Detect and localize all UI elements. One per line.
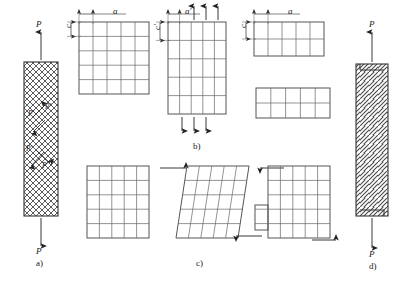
panel-c-offset-grid-group xyxy=(255,166,336,240)
panel-a-internal-force-label-2: P′ xyxy=(28,110,34,118)
panel-b-dim-a-prime-label: a′ xyxy=(185,7,191,16)
figure-canvas xyxy=(0,0,407,284)
panel-b-wide-dim-c-label: c xyxy=(239,24,248,28)
panel-b-dim-a-label: a xyxy=(113,7,118,16)
panel-d-bottom-load-label: P xyxy=(369,250,375,259)
panel-a-specimen-body xyxy=(24,62,58,216)
panel-a-top-load-label: P xyxy=(36,20,42,29)
panel-a-bottom-load-label: P xyxy=(36,247,42,256)
panel-b-tension-grid-group xyxy=(156,6,226,131)
panel-d-group xyxy=(356,32,388,248)
panel-label-c: c) xyxy=(196,259,203,268)
panel-d-specimen-body xyxy=(356,64,388,216)
panel-a-internal-force-label-4: P′ xyxy=(42,162,48,170)
panel-b-wide-dim-a-label: a xyxy=(288,7,293,16)
panel-b-undeformed-grid-group xyxy=(67,10,149,94)
panel-b-wide-deformed-grid-group xyxy=(256,88,330,118)
panel-b-dim-c-prime-label: c′ xyxy=(153,24,162,30)
panel-label-b: b) xyxy=(193,142,201,151)
panel-label-a: a) xyxy=(36,259,43,268)
panel-c-undeformed-grid-group xyxy=(87,166,149,238)
panel-label-d: d) xyxy=(369,262,377,271)
panel-a-internal-force-label-1: P′ xyxy=(45,103,51,111)
panel-a-group xyxy=(24,32,58,246)
figure-root: P P P′ P′ P′ P′ a c a′ c′ a c P P a) b) … xyxy=(0,0,407,284)
panel-a-internal-force-label-3: P′ xyxy=(26,145,32,153)
panel-b-dim-c-label: c xyxy=(64,24,73,28)
panel-d-top-load-label: P xyxy=(369,20,375,29)
panel-b-wide-undeformed-grid-group xyxy=(242,10,324,56)
panel-c-sheared-grid-group xyxy=(176,166,262,238)
